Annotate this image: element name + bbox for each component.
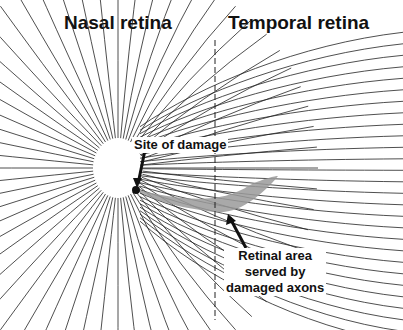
damage-site-marker [132, 186, 140, 194]
area-arrow [230, 218, 246, 248]
retina-axon-diagram [0, 0, 403, 330]
damaged-area-shading [138, 176, 278, 212]
retinal-area-label: Retinal area served by damaged axons [224, 248, 326, 296]
site-of-damage-label: Site of damage [132, 137, 228, 153]
